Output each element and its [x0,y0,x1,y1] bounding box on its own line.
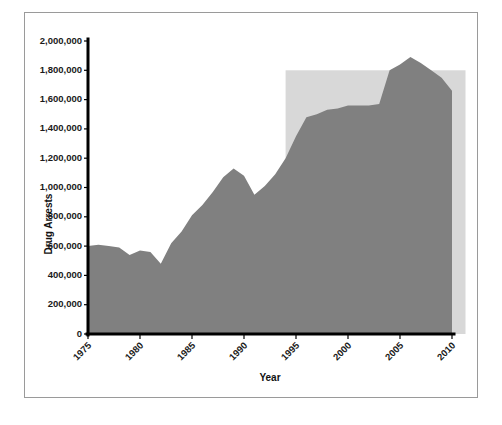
y-axis-title: Drug Arrests [43,193,54,254]
y-tick-label: 200,000 [48,298,82,309]
data-area-group [88,57,452,334]
y-tick-label: 400,000 [48,269,82,280]
y-axis-tick-labels: 0200,000400,000600,000800,0001,000,0001,… [40,35,82,339]
y-tick-label: 1,600,000 [40,93,82,104]
x-tick-label: 1975 [71,339,94,362]
x-tick-label: 2000 [331,340,354,363]
x-tick-label: 2010 [435,340,458,363]
x-tick-label: 1995 [279,339,302,362]
x-tick-label: 1985 [175,339,198,362]
y-tick-label: 1,800,000 [40,64,82,75]
y-tick-label: 1,000,000 [40,181,82,192]
x-tick-label: 2005 [383,339,406,362]
chart-container: 0200,000400,000600,000800,0001,000,0001,… [0,0,502,425]
x-tick-label: 1990 [227,340,250,363]
drug-arrests-area-chart: 0200,000400,000600,000800,0001,000,0001,… [0,0,502,425]
y-tick-label: 2,000,000 [40,35,82,46]
x-axis-title: Year [259,372,280,383]
x-tick-label: 1980 [123,340,146,363]
y-tick-label: 0 [77,328,82,339]
x-axis-tick-labels: 19751980198519901995200020052010 [71,339,458,362]
drug-arrests-area-path [88,57,452,334]
y-tick-label: 1,200,000 [40,152,82,163]
y-tick-label: 1,400,000 [40,122,82,133]
